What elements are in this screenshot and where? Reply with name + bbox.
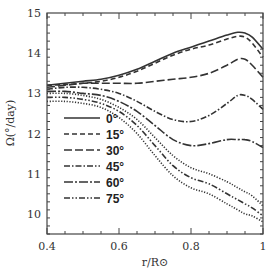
y-axis-label: Ω(°/day): [4, 100, 17, 147]
ticks: [47, 13, 263, 234]
plot-frame: [47, 13, 263, 234]
legend-label: 15°: [106, 128, 124, 142]
y-tick-label: 15: [27, 7, 41, 20]
legend-label: 75°: [106, 192, 124, 206]
x-tick-label: 1: [260, 240, 267, 253]
legend-label: 45°: [106, 160, 124, 174]
x-axis-label: r/R⊙: [142, 256, 168, 269]
y-tick-label: 11: [27, 168, 41, 181]
y-tick-label: 14: [27, 47, 41, 60]
y-tick-label: 12: [27, 128, 41, 141]
legend: 0°15°30°45°60°75°: [64, 112, 124, 206]
plot-lines: [47, 32, 263, 222]
y-tick-label: 13: [27, 87, 41, 100]
legend-label: 0°: [106, 112, 118, 126]
chart: 0.40.60.81101112131415 r/R⊙ Ω(°/day) 0°1…: [0, 0, 271, 272]
y-tick-label: 10: [27, 208, 41, 221]
band-line-1: [47, 101, 263, 222]
legend-label: 30°: [106, 144, 124, 158]
x-tick-label: 0.8: [182, 240, 200, 253]
x-tick-label: 0.4: [38, 240, 56, 253]
x-tick-label: 0.6: [110, 240, 128, 253]
series-line-0deg: [47, 32, 263, 85]
legend-label: 60°: [106, 176, 124, 190]
